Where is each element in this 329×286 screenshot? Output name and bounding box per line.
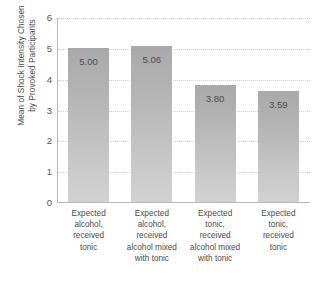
y-axis-tick-label: 6 bbox=[36, 13, 52, 23]
x-axis-category-label: Expected tonic, received tonic bbox=[247, 208, 310, 253]
y-axis-tick-label: 2 bbox=[36, 137, 52, 147]
bar-value-label: 5.06 bbox=[131, 55, 172, 65]
bar-value-label: 5.00 bbox=[68, 57, 109, 67]
x-axis-category-label: Expected alcohol, received tonic bbox=[57, 208, 120, 253]
x-axis-category-label: Expected tonic, received alcohol mixed w… bbox=[184, 208, 247, 264]
bar: 5.06 bbox=[131, 46, 172, 202]
bar-chart: Mean of Shock Intensity Chosen by Provok… bbox=[0, 0, 329, 286]
y-axis-tick-label: 0 bbox=[36, 198, 52, 208]
bar: 3.59 bbox=[258, 91, 299, 202]
y-axis-tick-label: 5 bbox=[36, 44, 52, 54]
bar-value-label: 3.59 bbox=[258, 100, 299, 110]
bar-value-label: 3.80 bbox=[195, 94, 236, 104]
x-axis-category-label: Expected alcohol, received alcohol mixed… bbox=[120, 208, 183, 264]
y-axis-tick-label: 4 bbox=[36, 75, 52, 85]
y-axis-tick-labels: 0123456 bbox=[36, 0, 52, 286]
bar: 3.80 bbox=[195, 85, 236, 202]
plot-area: 5.005.063.803.59 bbox=[57, 18, 310, 203]
bars-group: 5.005.063.803.59 bbox=[57, 18, 310, 203]
y-axis-tick-label: 3 bbox=[36, 106, 52, 116]
x-axis-category-labels: Expected alcohol, received tonicExpected… bbox=[57, 208, 310, 286]
bar: 5.00 bbox=[68, 48, 109, 202]
y-axis-tick-label: 1 bbox=[36, 167, 52, 177]
y-axis-title: Mean of Shock Intensity Chosen by Provok… bbox=[17, 0, 38, 151]
